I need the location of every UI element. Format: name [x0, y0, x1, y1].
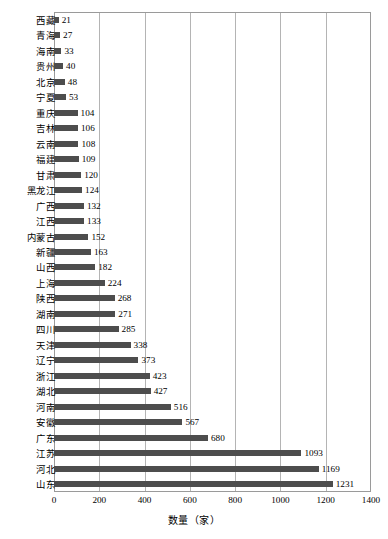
bar-value-label: 285 — [122, 324, 136, 334]
bar-row: 新疆163 — [0, 244, 388, 259]
bar-row: 天津338 — [0, 337, 388, 352]
bar — [54, 48, 61, 54]
x-axis-ticks: 0200400600800100012001400 — [0, 495, 388, 509]
bar-value-label: 224 — [108, 278, 122, 288]
x-tick-label: 200 — [92, 495, 106, 505]
x-axis-title: 数量（家） — [0, 512, 388, 527]
category-label: 河北 — [36, 462, 55, 476]
bar — [54, 17, 59, 23]
horizontal-bar-chart: 西藏21青海27海南33贵州40北京48宁夏53重庆104吉林106云南108福… — [0, 0, 388, 539]
bar-row: 浙江423 — [0, 368, 388, 383]
x-tick-label: 1200 — [317, 495, 335, 505]
bar — [54, 357, 138, 363]
bar-value-label: 108 — [81, 139, 95, 149]
bar-row: 黑龙江124 — [0, 182, 388, 197]
bar-row: 广西132 — [0, 198, 388, 213]
bar — [54, 125, 78, 131]
category-label: 浙江 — [36, 369, 55, 383]
bar-value-label: 48 — [68, 77, 77, 87]
category-label: 辽宁 — [36, 353, 55, 367]
category-label: 贵州 — [36, 59, 55, 73]
bar-row: 海南33 — [0, 43, 388, 58]
bar-value-label: 53 — [69, 92, 78, 102]
category-label: 河南 — [36, 400, 55, 414]
bar-value-label: 104 — [81, 108, 95, 118]
bar-value-label: 268 — [118, 293, 132, 303]
bar — [54, 342, 131, 348]
bar — [54, 435, 208, 441]
bar — [54, 388, 151, 394]
bar — [54, 79, 65, 85]
bar — [54, 466, 319, 472]
bar-value-label: 152 — [91, 232, 105, 242]
bar — [54, 187, 82, 193]
bar-row: 内蒙古152 — [0, 229, 388, 244]
category-label: 广西 — [36, 199, 55, 213]
bar — [54, 419, 182, 425]
bar — [54, 280, 105, 286]
bar — [54, 218, 84, 224]
category-label: 陕西 — [36, 291, 55, 305]
bar-value-label: 516 — [174, 402, 188, 412]
x-tick-label: 1000 — [271, 495, 289, 505]
bar — [54, 404, 171, 410]
bar-row: 重庆104 — [0, 105, 388, 120]
bar — [54, 264, 95, 270]
category-label: 广东 — [36, 431, 55, 445]
category-label: 云南 — [36, 137, 55, 151]
bar-row: 河南516 — [0, 399, 388, 414]
bar-value-label: 109 — [82, 154, 96, 164]
bar — [54, 141, 78, 147]
bar-value-label: 33 — [64, 46, 73, 56]
category-label: 湖北 — [36, 384, 55, 398]
category-label: 福建 — [36, 152, 55, 166]
bar-row: 上海224 — [0, 275, 388, 290]
bar-row: 江苏1093 — [0, 446, 388, 461]
x-tick-label: 0 — [52, 495, 57, 505]
bar — [54, 110, 78, 116]
bar-row: 甘肃120 — [0, 167, 388, 182]
bar-row: 云南108 — [0, 136, 388, 151]
bar-row: 广东680 — [0, 430, 388, 445]
category-label: 江西 — [36, 214, 55, 228]
category-label: 北京 — [36, 75, 55, 89]
bar-value-label: 338 — [134, 340, 148, 350]
bar — [54, 481, 333, 487]
bar-value-label: 132 — [87, 201, 101, 211]
bar-value-label: 21 — [62, 15, 71, 25]
bar-row: 江西133 — [0, 213, 388, 228]
bar-value-label: 427 — [154, 386, 168, 396]
bar-row: 湖南271 — [0, 306, 388, 321]
bar — [54, 295, 115, 301]
bar-row: 山东1231 — [0, 477, 388, 492]
bar-rows: 西藏21青海27海南33贵州40北京48宁夏53重庆104吉林106云南108福… — [0, 12, 388, 492]
bar-value-label: 163 — [94, 247, 108, 257]
bar-value-label: 120 — [84, 170, 98, 180]
bar — [54, 203, 84, 209]
bar — [54, 450, 301, 456]
bar-value-label: 1169 — [322, 464, 340, 474]
bar-value-label: 1093 — [304, 448, 322, 458]
bar-row: 四川285 — [0, 322, 388, 337]
category-label: 湖南 — [36, 307, 55, 321]
category-label: 黑龙江 — [27, 183, 55, 197]
bar — [54, 156, 79, 162]
bar-value-label: 27 — [63, 30, 72, 40]
bar — [54, 326, 119, 332]
bar-row: 福建109 — [0, 151, 388, 166]
bar-row: 陕西268 — [0, 291, 388, 306]
category-label: 海南 — [36, 44, 55, 58]
bar — [54, 94, 66, 100]
bar-value-label: 124 — [85, 185, 99, 195]
bar-value-label: 567 — [185, 417, 199, 427]
category-label: 四川 — [36, 322, 55, 336]
category-label: 吉林 — [36, 121, 55, 135]
bar-row: 北京48 — [0, 74, 388, 89]
bar — [54, 373, 150, 379]
bar-row: 湖北427 — [0, 384, 388, 399]
bar-value-label: 40 — [66, 61, 75, 71]
x-tick-label: 1400 — [362, 495, 380, 505]
category-label: 山东 — [36, 477, 55, 491]
x-tick-label: 600 — [183, 495, 197, 505]
bar-row: 贵州40 — [0, 58, 388, 73]
